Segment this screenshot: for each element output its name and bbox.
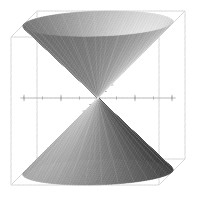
surface-plot-figure: Grayscale 3D surface plot of a double co…: [0, 0, 197, 200]
surface-plot-canvas: [0, 0, 197, 200]
